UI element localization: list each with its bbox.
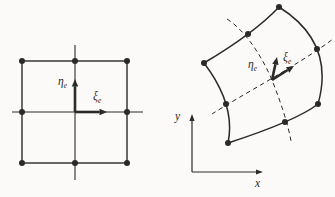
reference-element-node	[72, 58, 78, 64]
figure: ηeξeηeξexy	[0, 0, 335, 197]
y-axis-label: y	[174, 110, 181, 123]
mapped-element-node	[245, 31, 251, 37]
mapped-element-node	[201, 60, 207, 66]
reference-element-node	[72, 160, 78, 166]
reference-element-node	[19, 109, 25, 115]
reference-element-node	[124, 160, 130, 166]
mapped-element-node	[276, 4, 282, 10]
mapped-element-node	[315, 101, 321, 107]
mapped-element-node	[223, 101, 229, 107]
reference-element-node	[19, 160, 25, 166]
figure-background	[0, 0, 335, 197]
x-axis-label: x	[254, 177, 261, 189]
reference-element-node	[124, 58, 130, 64]
mapped-element-node	[282, 119, 288, 125]
figure-svg: ηeξeηeξexy	[0, 0, 335, 197]
mapped-element-node	[225, 140, 231, 146]
mapped-element-node	[314, 46, 320, 52]
reference-element-node	[124, 109, 130, 115]
reference-element-node	[19, 58, 25, 64]
